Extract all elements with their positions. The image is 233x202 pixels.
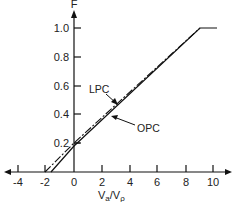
arrow-icon	[111, 115, 118, 120]
chart: -4 -2 0 2 4 6 8 10 0.2 0.4 0.6 0.8 1.0 F…	[0, 0, 233, 202]
x-axis-label: Va/Vρ	[98, 189, 125, 202]
x-axis-right-arrow-icon	[225, 169, 232, 175]
svg-text:0.6: 0.6	[54, 80, 69, 92]
svg-text:0.2: 0.2	[54, 137, 69, 149]
svg-text:-2: -2	[40, 176, 50, 188]
annotation-opc: OPC	[111, 115, 160, 134]
svg-text:0.8: 0.8	[54, 51, 69, 63]
series-opc-line	[51, 28, 217, 172]
svg-text:4: 4	[127, 176, 133, 188]
svg-text:0: 0	[71, 176, 77, 188]
svg-text:8: 8	[183, 176, 189, 188]
svg-text:10: 10	[207, 176, 219, 188]
y-tick-labels: 0.2 0.4 0.6 0.8 1.0	[54, 22, 69, 149]
svg-text:2: 2	[99, 176, 105, 188]
x-axis	[4, 165, 232, 175]
svg-text:LPC: LPC	[89, 83, 110, 95]
x-axis-left-arrow-icon	[4, 169, 11, 175]
svg-text:0.4: 0.4	[54, 108, 69, 120]
svg-text:6: 6	[154, 176, 160, 188]
svg-text:-4: -4	[13, 176, 23, 188]
annotation-lpc: LPC	[89, 83, 118, 105]
y-axis-label: F	[71, 0, 78, 10]
svg-text:OPC: OPC	[137, 122, 160, 134]
svg-text:1.0: 1.0	[54, 22, 69, 34]
y-axis-arrow-icon	[71, 10, 77, 18]
x-tick-labels: -4 -2 0 2 4 6 8 10	[13, 176, 219, 188]
